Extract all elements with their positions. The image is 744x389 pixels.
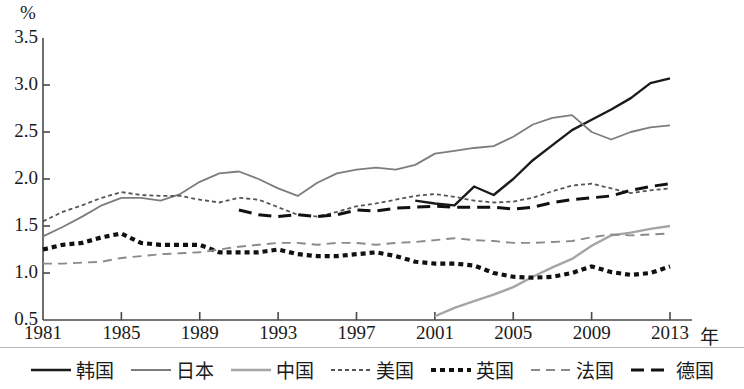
series-line-1 <box>43 115 670 236</box>
legend-label-2: 中国 <box>276 356 314 383</box>
legend-divider <box>0 347 744 348</box>
solid-black-key <box>31 363 71 377</box>
solid-lightgray-key <box>231 363 271 377</box>
plot-area <box>0 0 744 389</box>
series-line-5 <box>43 234 670 264</box>
solid-gray-key <box>131 363 171 377</box>
axis-lines <box>43 38 692 320</box>
legend-item-6: 德国 <box>631 356 714 383</box>
legend-item-4: 英国 <box>431 356 514 383</box>
legend-label-4: 英国 <box>476 356 514 383</box>
thick-dotted-key <box>431 363 471 377</box>
bold-dashed-key <box>631 363 671 377</box>
legend-item-3: 美国 <box>331 356 414 383</box>
series-line-6 <box>239 184 670 217</box>
axis-tick-marks <box>43 85 670 320</box>
legend-item-2: 中国 <box>231 356 314 383</box>
series-lines <box>43 78 670 316</box>
fine-dashed-key <box>331 363 371 377</box>
legend-label-3: 美国 <box>376 356 414 383</box>
legend-label-5: 法国 <box>576 356 614 383</box>
legend-label-1: 日本 <box>176 356 214 383</box>
series-line-3 <box>43 184 670 222</box>
series-line-0 <box>415 78 670 205</box>
legend-label-6: 德国 <box>676 356 714 383</box>
chart-legend: 韩国日本中国美国英国法国德国 <box>0 350 744 389</box>
legend-label-0: 韩国 <box>76 356 114 383</box>
chart-figure: % 年 3.53.02.52.01.51.00.5 19811985198919… <box>0 0 744 389</box>
legend-item-0: 韩国 <box>31 356 114 383</box>
legend-item-1: 日本 <box>131 356 214 383</box>
dashed-gray-key <box>531 363 571 377</box>
legend-item-5: 法国 <box>531 356 614 383</box>
